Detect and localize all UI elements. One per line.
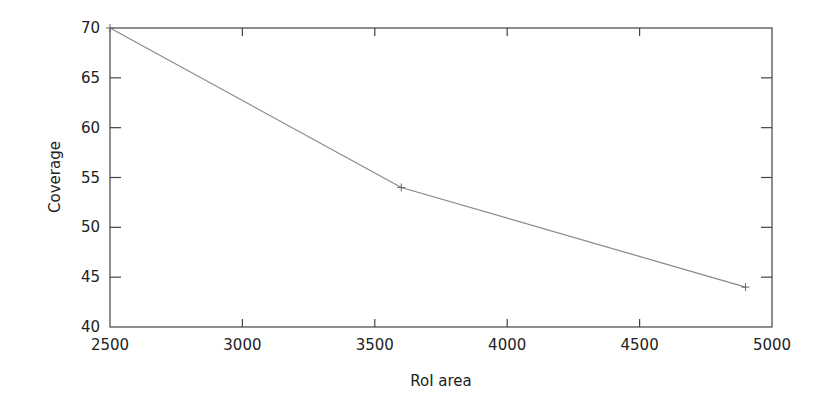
- series-line: [110, 28, 746, 287]
- x-tick-label: 2500: [91, 336, 129, 354]
- plus-marker-icon: [106, 24, 114, 32]
- y-tick-label: 60: [81, 119, 100, 137]
- plus-marker-icon: [742, 283, 750, 291]
- y-axis-label: Coverage: [46, 141, 64, 213]
- y-tick-label: 65: [81, 69, 100, 87]
- y-tick-label: 50: [81, 218, 100, 236]
- data-series: [106, 24, 750, 291]
- plus-marker-icon: [397, 183, 405, 191]
- x-axis-label: RoI area: [410, 372, 472, 390]
- y-tick-label: 45: [81, 268, 100, 286]
- y-tick-label: 55: [81, 169, 100, 187]
- x-tick-label: 4000: [488, 336, 526, 354]
- x-axis-ticks: 250030003500400045005000: [91, 28, 791, 354]
- x-tick-label: 4500: [621, 336, 659, 354]
- y-axis-ticks: 40455055606570: [81, 19, 772, 336]
- plot-frame: [110, 28, 772, 327]
- line-chart: 250030003500400045005000 40455055606570 …: [0, 0, 836, 405]
- x-tick-label: 3000: [223, 336, 261, 354]
- x-tick-label: 3500: [356, 336, 394, 354]
- y-tick-label: 70: [81, 19, 100, 37]
- x-tick-label: 5000: [753, 336, 791, 354]
- y-tick-label: 40: [81, 318, 100, 336]
